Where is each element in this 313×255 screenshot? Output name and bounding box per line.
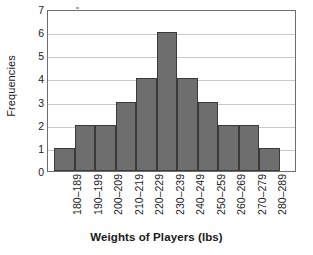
x-axis-tick-labels: 180–189190–199200–209210–219220–229230–2… bbox=[47, 174, 296, 226]
histogram-bar bbox=[136, 78, 157, 171]
x-axis-tick-label: 250–259 bbox=[214, 174, 228, 226]
x-axis-tick-label: 210–219 bbox=[132, 174, 146, 226]
x-axis-tick-label: 240–249 bbox=[193, 174, 207, 226]
histogram-bar bbox=[75, 125, 96, 171]
histogram-chart: Frequencies 01234567 180–189190–199200–2… bbox=[0, 0, 313, 255]
y-axis-tick-labels: 01234567 bbox=[24, 10, 44, 172]
y-axis-tick-label: 0 bbox=[24, 167, 44, 177]
y-axis-tick-label: 1 bbox=[24, 144, 44, 154]
histogram-bar bbox=[198, 102, 219, 171]
x-axis-tick-label: 180–189 bbox=[70, 174, 84, 226]
x-axis-tick-label: 200–209 bbox=[111, 174, 125, 226]
y-axis-tick-label: 5 bbox=[24, 51, 44, 61]
y-axis-tick-label: 7 bbox=[24, 5, 44, 15]
histogram-bar bbox=[177, 78, 198, 171]
x-axis-tick-label: 190–199 bbox=[91, 174, 105, 226]
x-axis-title: Weights of Players (lbs) bbox=[0, 231, 313, 243]
histogram-bar bbox=[218, 125, 239, 171]
y-axis-tick-label: 3 bbox=[24, 98, 44, 108]
y-axis-title: Frequencies bbox=[2, 0, 20, 172]
plot-area bbox=[47, 10, 296, 172]
x-axis-tick-label: 220–229 bbox=[152, 174, 166, 226]
y-axis-tick-label: 2 bbox=[24, 121, 44, 131]
x-axis-tick-label: 280–289 bbox=[275, 174, 289, 226]
x-axis-tick-label: 260–269 bbox=[234, 174, 248, 226]
y-axis-tick-label: 6 bbox=[24, 28, 44, 38]
histogram-bar bbox=[239, 125, 260, 171]
histogram-bar bbox=[259, 148, 280, 171]
scan-artifact-speck bbox=[76, 7, 79, 9]
histogram-bar bbox=[157, 32, 178, 171]
histogram-bar bbox=[95, 125, 116, 171]
histogram-bar bbox=[54, 148, 75, 171]
x-axis-tick-label: 230–239 bbox=[173, 174, 187, 226]
y-axis-tick-label: 4 bbox=[24, 74, 44, 84]
x-axis-tick-label: 270–279 bbox=[255, 174, 269, 226]
bar-series bbox=[48, 11, 295, 171]
histogram-bar bbox=[116, 102, 137, 171]
